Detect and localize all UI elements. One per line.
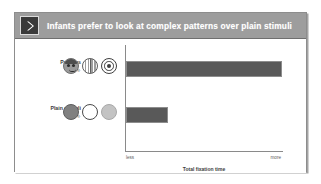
x-axis-title: Total fixation time <box>125 166 283 172</box>
plain-light-circle-stimulus-icon <box>101 104 117 120</box>
x-tick-less: less <box>126 155 134 160</box>
chevron-right-icon <box>20 16 39 35</box>
x-tick-more: more <box>271 155 281 160</box>
stimuli-group-plain <box>63 104 117 120</box>
slide-title: Infants prefer to look at complex patter… <box>47 21 292 31</box>
bar-plain-stimuli <box>126 107 168 123</box>
striped-circle-stimulus-icon <box>82 58 98 74</box>
chart-body: Patterns e.g. Plain stimuli e.g. <box>15 39 306 173</box>
plain-dark-circle-stimulus-icon <box>63 104 79 120</box>
slide-header-band: Infants prefer to look at complex patter… <box>15 13 306 39</box>
bullseye-stimulus-icon <box>101 58 117 74</box>
bar-patterns <box>126 61 282 77</box>
slide-container: Infants prefer to look at complex patter… <box>14 12 307 172</box>
face-stimulus-icon <box>63 58 79 74</box>
plain-white-circle-stimulus-icon <box>82 104 98 120</box>
stimuli-group-patterns <box>63 58 117 74</box>
plot-area: less more Total fixation time <box>125 45 283 152</box>
x-axis-line <box>125 151 283 152</box>
